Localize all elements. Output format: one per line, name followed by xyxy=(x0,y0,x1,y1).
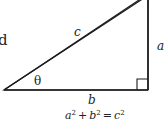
label-theta: θ xyxy=(34,74,41,88)
label-c: c xyxy=(74,25,81,39)
label-b: b xyxy=(88,93,96,107)
pythagorean-equation: a2+b2=c2 xyxy=(65,109,125,122)
right-triangle-diagram: d c a θ b a2+b2=c2 xyxy=(0,0,168,123)
label-a: a xyxy=(157,39,164,53)
cropped-text: d xyxy=(0,31,8,49)
triangle-shape xyxy=(4,0,148,90)
right-angle-marker xyxy=(137,79,148,90)
